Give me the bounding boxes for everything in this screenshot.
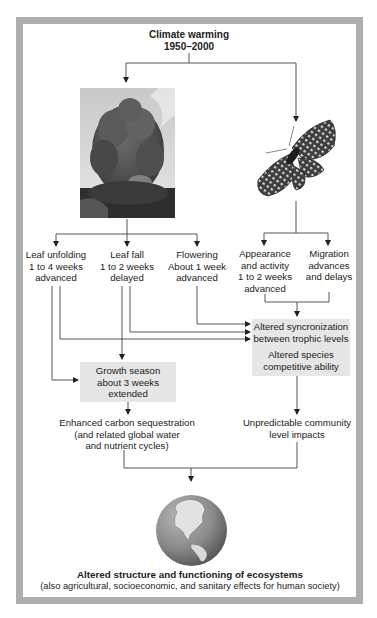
conclusion-subtitle: (also agricultural, socioeconomic, and s…: [20, 581, 360, 593]
carbon-line3: and nutrient cycles): [52, 440, 202, 452]
flowering-text: Flowering About 1 week advanced: [163, 249, 231, 284]
globe-icon: [155, 494, 228, 567]
appearance-line2: and activity: [232, 260, 298, 272]
community-impacts-text: Unpredictable community level impacts: [236, 417, 358, 440]
altered-sync-line1: Altered syncronization: [252, 321, 350, 333]
carbon-sequestration-text: Enhanced carbon sequestration (and relat…: [52, 417, 202, 452]
carbon-line2: (and related global water: [52, 429, 202, 441]
leaf-unfolding-line3: advanced: [13, 272, 99, 284]
flowering-line1: Flowering: [163, 249, 231, 261]
growth-season-text: Growth season about 3 weeks extended: [80, 365, 176, 400]
growth-season-box: Growth season about 3 weeks extended: [80, 362, 176, 402]
leaf-fall-line1: Leaf fall: [92, 249, 162, 261]
tree-icon: [80, 88, 175, 218]
butterfly-photo: [252, 118, 338, 204]
altered-sync-text: Altered syncronization between trophic l…: [252, 321, 350, 344]
leaf-fall-line3: delayed: [92, 272, 162, 284]
migration-line3: and delays: [302, 271, 356, 283]
leaf-fall-text: Leaf fall 1 to 2 weeks delayed: [92, 249, 162, 284]
appearance-activity-text: Appearance and activity 1 to 2 weeks adv…: [232, 248, 298, 294]
altered-competition-line2: competitive ability: [252, 361, 350, 373]
community-line1: Unpredictable community: [236, 417, 358, 429]
altered-interactions-box: Altered syncronization between trophic l…: [252, 319, 350, 376]
altered-competition-line1: Altered species: [252, 349, 350, 361]
appearance-line1: Appearance: [232, 248, 298, 260]
migration-text: Migration advances and delays: [302, 248, 356, 283]
title-years: 1950–2000: [139, 41, 239, 53]
leaf-unfolding-line2: 1 to 4 weeks: [13, 261, 99, 273]
butterfly-icon: [252, 118, 338, 204]
leaf-unfolding-text: Leaf unfolding 1 to 4 weeks advanced: [13, 249, 99, 284]
altered-competition-text: Altered species competitive ability: [252, 349, 350, 372]
flowering-line2: About 1 week: [163, 261, 231, 273]
migration-line1: Migration: [302, 248, 356, 260]
tree-photo: [80, 88, 175, 218]
appearance-line4: advanced: [232, 283, 298, 295]
leaf-unfolding-line1: Leaf unfolding: [13, 249, 99, 261]
growth-line2: about 3 weeks: [80, 377, 176, 389]
appearance-line3: 1 to 2 weeks: [232, 271, 298, 283]
growth-line1: Growth season: [80, 365, 176, 377]
leaf-fall-line2: 1 to 2 weeks: [92, 261, 162, 273]
altered-sync-line2: between trophic levels: [252, 333, 350, 345]
carbon-line1: Enhanced carbon sequestration: [52, 417, 202, 429]
conclusion-title: Altered structure and functioning of eco…: [20, 569, 360, 581]
growth-line3: extended: [80, 388, 176, 400]
title-line1: Climate warming: [139, 29, 239, 41]
flowering-line3: advanced: [163, 272, 231, 284]
migration-line2: advances: [302, 260, 356, 272]
title-climate-warming: Climate warming 1950–2000: [139, 29, 239, 52]
community-line2: level impacts: [236, 429, 358, 441]
globe-image: [155, 494, 228, 567]
